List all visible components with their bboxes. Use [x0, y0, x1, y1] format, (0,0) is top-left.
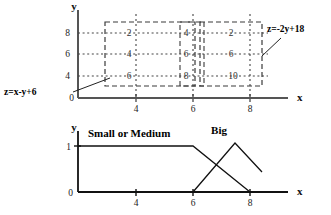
bottom-x-tick-4: 4 [134, 198, 139, 208]
grid-cell-r1c1: 6 [184, 49, 189, 59]
grid-cell-r2c2: 10 [228, 71, 238, 81]
top-y-axis-label: y [71, 0, 77, 12]
grid-cell-r0c1: 4 [184, 28, 189, 38]
region-box-left [105, 22, 195, 86]
small-or-medium-label: Small or Medium [88, 127, 170, 139]
right-region-equation: z=-2y+18 [267, 24, 304, 34]
membership-panel: y x 1 0 4 6 8 Small or Medium Big [66, 121, 303, 208]
left-region-equation: z=x-y+6 [4, 87, 37, 97]
grid-cell-r0c2: 2 [229, 28, 234, 38]
grid-cell-r2c0: 6 [127, 71, 132, 81]
big-label: Big [211, 124, 227, 136]
top-x-tick-4: 4 [134, 104, 139, 114]
grid-cell-r0c0: 2 [127, 28, 132, 38]
curve-big [193, 143, 262, 192]
top-y-tick-6: 6 [65, 49, 70, 59]
bottom-x-tick-6: 6 [191, 198, 196, 208]
top-y-tick-8: 8 [65, 28, 70, 38]
bottom-x-tick-8: 8 [248, 198, 253, 208]
bottom-y-tick-1: 1 [66, 142, 71, 152]
top-y-tick-4: 4 [65, 71, 70, 81]
grid-cell-r1c2: 6 [229, 49, 234, 59]
bottom-y-axis-label: y [71, 121, 77, 133]
top-x-axis-label: x [297, 91, 303, 103]
figure-container: y x 8 6 4 0 4 6 8 [0, 0, 331, 215]
top-y-tick-0: 0 [69, 93, 74, 103]
grid-cell-r1c0: 4 [127, 49, 132, 59]
consequent-grid-panel: y x 8 6 4 0 4 6 8 [4, 0, 304, 114]
bottom-x-axis-label: x [297, 185, 303, 197]
grid-cell-r2c1: 8 [184, 71, 189, 81]
curve-small-or-medium [78, 146, 250, 192]
top-x-tick-8: 8 [248, 104, 253, 114]
bottom-y-tick-0: 0 [68, 188, 73, 198]
top-x-tick-6: 6 [191, 104, 196, 114]
leader-line-right-equation [262, 38, 281, 56]
figure-svg: y x 8 6 4 0 4 6 8 [0, 0, 331, 215]
